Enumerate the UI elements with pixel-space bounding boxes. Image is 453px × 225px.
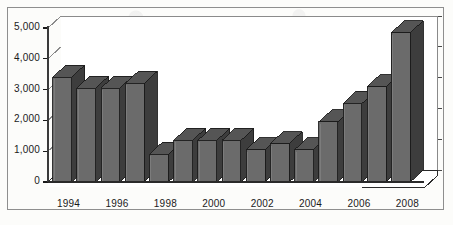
- bar-front-face: [174, 140, 193, 182]
- floor-front-face: [48, 182, 424, 187]
- y-tick-label-3000: 3,000: [0, 83, 40, 94]
- bar-2008: [391, 21, 423, 182]
- y-tick-label-1000: 1,000: [0, 144, 40, 155]
- x-tick-label-1994: 1994: [43, 198, 95, 209]
- gridline-depth-5000: [48, 16, 61, 28]
- x-tick-label-2008: 2008: [381, 198, 433, 209]
- x-tick-label-1998: 1998: [139, 198, 191, 209]
- bar-front-face: [125, 83, 144, 182]
- bar-front-face: [222, 140, 241, 182]
- bar-front-face: [77, 88, 96, 182]
- x-tick-label-1996: 1996: [91, 198, 143, 209]
- bar-front-face: [295, 150, 314, 182]
- x-tick-label-2000: 2000: [188, 198, 240, 209]
- x-tick-label-2004: 2004: [285, 198, 337, 209]
- y-tick-label-2000: 2,000: [0, 113, 40, 124]
- bar-front-face: [246, 150, 265, 182]
- y-tick-label-0: 0: [0, 175, 40, 186]
- bar-front-face: [343, 103, 362, 182]
- bar-front-face: [319, 122, 338, 182]
- gridline-depth-4000: [48, 47, 61, 59]
- x-tick-label-2006: 2006: [333, 198, 385, 209]
- bar-front-face: [149, 154, 168, 182]
- bar-front-face: [198, 140, 217, 182]
- bar-side-face: [410, 21, 423, 182]
- bar-front-face: [101, 88, 120, 182]
- y-tick-label-4000: 4,000: [0, 52, 40, 63]
- bar-chart-plot: [0, 0, 453, 225]
- bar-front-face: [270, 144, 289, 183]
- bar-front-face: [391, 33, 410, 182]
- y-tick-label-5000: 5,000: [0, 21, 40, 32]
- chart-screenshot: 01,0002,0003,0004,0005,000 1994199619982…: [0, 0, 453, 225]
- bar-front-face: [53, 77, 72, 182]
- x-tick-label-2002: 2002: [236, 198, 288, 209]
- bar-front-face: [367, 87, 386, 182]
